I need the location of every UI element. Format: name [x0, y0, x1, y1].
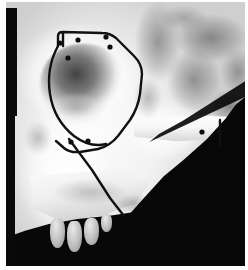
- landmark-marker-m4: [107, 44, 112, 49]
- osteotomy-outline-stroke: [56, 32, 142, 152]
- figure-caption: [0, 0, 1, 1]
- landmark-marker-m2: [75, 37, 80, 42]
- osteotomy-tracing-overlay: [6, 2, 245, 266]
- landmark-marker-m1: [57, 40, 62, 45]
- landmark-marker-m9: [215, 128, 220, 133]
- orbital-rim-arc-stroke: [49, 46, 106, 145]
- landmark-marker-m3: [103, 34, 108, 39]
- radiograph-plate: [6, 2, 245, 266]
- landmark-marker-m6: [68, 139, 73, 144]
- skull-radiograph-figure: [0, 0, 248, 270]
- landmark-marker-m5: [65, 55, 70, 60]
- landmark-marker-m7: [85, 138, 90, 143]
- landmark-marker-m8: [199, 129, 204, 134]
- zygoma-descender-stroke: [69, 139, 124, 216]
